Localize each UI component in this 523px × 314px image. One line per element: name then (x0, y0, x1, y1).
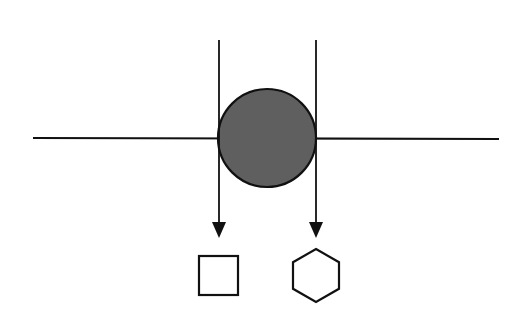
center-circle (218, 89, 316, 187)
diagram-canvas (0, 0, 523, 314)
square-shape (199, 256, 238, 295)
diagram-svg (0, 0, 523, 314)
hexagon-shape (293, 249, 339, 302)
